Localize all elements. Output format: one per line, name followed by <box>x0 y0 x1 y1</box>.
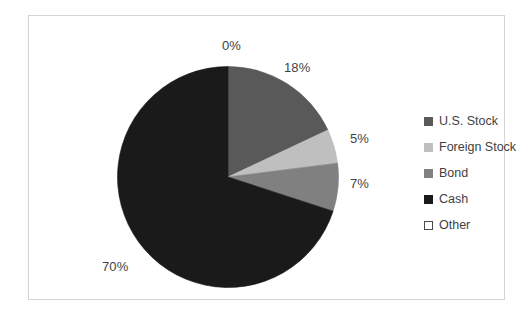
legend-swatch-icon-bond <box>424 169 433 178</box>
chart-legend: U.S. StockForeign StockBondCashOther <box>424 108 529 238</box>
legend-item-foreign-stock[interactable]: Foreign Stock <box>424 134 529 160</box>
pie-slice-group <box>118 67 339 288</box>
pie-chart-screenshot: 0% 18% 5% 7% 70% U.S. StockForeign Stock… <box>0 0 532 322</box>
legend-swatch-icon-other <box>424 221 433 230</box>
legend-label-foreign-stock: Foreign Stock <box>439 141 516 154</box>
legend-item-other[interactable]: Other <box>424 212 529 238</box>
legend-swatch-icon-foreign-stock <box>424 143 433 152</box>
pie-graphic <box>117 66 339 288</box>
legend-item-bond[interactable]: Bond <box>424 160 529 186</box>
pie-label-foreign-stock: 5% <box>350 131 369 146</box>
chart-plot-frame: 0% 18% 5% 7% 70% U.S. StockForeign Stock… <box>28 15 505 300</box>
legend-item-cash[interactable]: Cash <box>424 186 529 212</box>
legend-item-u-s-stock[interactable]: U.S. Stock <box>424 108 529 134</box>
legend-label-other: Other <box>439 219 470 232</box>
pie-slices-svg <box>117 66 339 288</box>
legend-label-bond: Bond <box>439 167 468 180</box>
legend-swatch-icon-u-s-stock <box>424 117 433 126</box>
pie-label-bond: 7% <box>350 176 369 191</box>
legend-swatch-icon-cash <box>424 195 433 204</box>
pie-label-other: 0% <box>222 38 241 53</box>
pie-label-us-stock: 18% <box>284 60 310 75</box>
legend-label-cash: Cash <box>439 193 468 206</box>
pie-label-cash: 70% <box>102 259 128 274</box>
legend-label-u-s-stock: U.S. Stock <box>439 115 498 128</box>
